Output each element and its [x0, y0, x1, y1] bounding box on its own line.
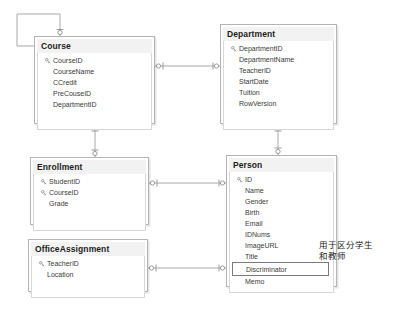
field-label: Gender [245, 196, 333, 207]
field-row[interactable]: DepartmentID [224, 43, 333, 54]
field-row[interactable]: Grade [34, 198, 145, 209]
entity-department[interactable]: DepartmentDepartmentIDDepartmentNameTeac… [220, 24, 337, 124]
entity-field-list: IDNameGenderBirthEmailIDNumsImageURLTitl… [229, 172, 334, 293]
field-row[interactable]: StartDate [224, 76, 333, 87]
multiplicity-marker [214, 64, 218, 68]
primary-key-icon [41, 179, 47, 185]
field-row[interactable]: ImageURL [230, 240, 333, 251]
field-row[interactable]: DepartmentID [38, 99, 151, 110]
field-row[interactable]: Memo [230, 276, 333, 287]
erd-canvas: CourseCourseIDCourseNameCCreditPreCouseI… [0, 0, 402, 312]
field-row[interactable]: TeacherID [224, 65, 333, 76]
field-row[interactable]: StudentID [34, 176, 145, 187]
field-label: IDNums [245, 229, 333, 240]
primary-key-icon [231, 46, 237, 52]
field-label: CCredit [53, 77, 151, 88]
multiplicity-marker [220, 266, 224, 270]
entity-title: OfficeAssignment [31, 242, 145, 256]
entity-title: Enrollment [33, 160, 146, 174]
field-label: CourseID [49, 187, 145, 198]
multiplicity-marker [58, 30, 62, 34]
field-row[interactable]: RowVersion [224, 98, 333, 109]
field-row[interactable]: Birth [230, 207, 333, 218]
discriminator-note: 用于区分学生 和教师 [319, 240, 373, 262]
field-label: DepartmentID [239, 43, 333, 54]
key-slot-filled [234, 177, 245, 183]
multiplicity-marker [276, 149, 280, 153]
field-label: RowVersion [239, 98, 333, 109]
field-label: DepartmentID [53, 99, 151, 110]
field-row[interactable]: CCredit [38, 77, 151, 88]
entity-course[interactable]: CourseCourseIDCourseNameCCreditPreCouseI… [34, 36, 155, 124]
multiplicity-marker [156, 64, 160, 68]
key-slot-filled [36, 261, 47, 267]
primary-key-icon [45, 58, 51, 64]
field-row-selected[interactable]: Discriminator [232, 262, 329, 276]
field-row[interactable]: Email [230, 218, 333, 229]
field-label: Birth [245, 207, 333, 218]
field-label: Discriminator [246, 265, 328, 274]
field-label: Tuition [239, 87, 333, 98]
field-label: TeacherID [47, 258, 144, 269]
field-label: Name [245, 185, 333, 196]
field-row[interactable]: PreCouseID [38, 88, 151, 99]
field-label: Email [245, 218, 333, 229]
field-label: Memo [245, 276, 333, 287]
field-row[interactable]: Location [32, 269, 144, 280]
field-row[interactable]: DepartmentName [224, 54, 333, 65]
field-label: PreCouseID [53, 88, 151, 99]
field-row[interactable]: Name [230, 185, 333, 196]
entity-title: Person [229, 158, 334, 172]
primary-key-icon [237, 177, 243, 183]
multiplicity-marker [220, 181, 224, 185]
field-label: StartDate [239, 76, 333, 87]
field-label: TeacherID [239, 65, 333, 76]
primary-key-icon [41, 190, 47, 196]
field-label: ID [245, 174, 333, 185]
field-row[interactable]: TeacherID [32, 258, 144, 269]
key-slot-filled [38, 190, 49, 196]
field-label: CourseName [53, 66, 151, 77]
multiplicity-marker [149, 266, 153, 270]
key-slot-filled [38, 179, 49, 185]
field-row[interactable]: CourseName [38, 66, 151, 77]
entity-field-list: StudentIDCourseIDGrade [33, 174, 146, 231]
entity-field-list: CourseIDCourseNameCCreditPreCouseIDDepar… [37, 53, 152, 130]
field-row[interactable]: CourseID [34, 187, 145, 198]
field-row[interactable]: Gender [230, 196, 333, 207]
field-row[interactable]: ID [230, 174, 333, 185]
entity-title: Course [37, 39, 152, 53]
field-row[interactable]: Tuition [224, 87, 333, 98]
key-slot-filled [228, 46, 239, 52]
entity-enrollment[interactable]: EnrollmentStudentIDCourseIDGrade [30, 157, 149, 225]
entity-officeassignment[interactable]: OfficeAssignmentTeacherIDLocation [28, 239, 148, 292]
field-label: StudentID [49, 176, 145, 187]
multiplicity-marker [93, 151, 97, 155]
field-label: DepartmentName [239, 54, 333, 65]
field-label: Grade [49, 198, 145, 209]
field-row[interactable]: Title [230, 251, 333, 262]
entity-field-list: DepartmentIDDepartmentNameTeacherIDStart… [223, 41, 334, 130]
key-slot-filled [42, 58, 53, 64]
entity-title: Department [223, 27, 334, 41]
field-label: Location [47, 269, 144, 280]
field-row[interactable]: IDNums [230, 229, 333, 240]
multiplicity-marker [150, 181, 154, 185]
field-row[interactable]: CourseID [38, 55, 151, 66]
primary-key-icon [39, 261, 45, 267]
entity-person[interactable]: PersonIDNameGenderBirthEmailIDNumsImageU… [226, 155, 337, 287]
entity-field-list: TeacherIDLocation [31, 256, 145, 298]
field-label: CourseID [53, 55, 151, 66]
